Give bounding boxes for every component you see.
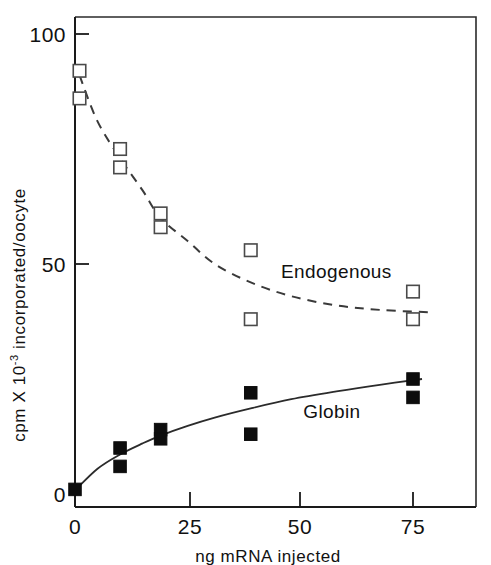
data-point (154, 207, 167, 220)
series-endogenous (73, 65, 431, 326)
data-point (73, 92, 86, 105)
data-point (114, 442, 127, 455)
y-tick-label-0: 0 (54, 483, 66, 506)
data-point (154, 433, 167, 446)
data-point (407, 313, 420, 326)
chart-canvas: 100 50 0 0 25 50 75 ng mRNA injected cpm… (0, 0, 491, 565)
x-axis (75, 492, 476, 507)
data-point (407, 373, 420, 386)
data-point (73, 65, 86, 78)
y-axis (75, 17, 89, 507)
y-axis-title: cpm X 10-3 incorporated/oocyte (8, 188, 29, 442)
y-axis-title-suffix: incorporated/oocyte (10, 188, 29, 354)
data-point (154, 221, 167, 234)
y-axis-title-prefix: cpm X 10 (10, 365, 29, 442)
data-point (407, 391, 420, 404)
series-globin (69, 373, 422, 496)
data-point (114, 460, 127, 473)
data-point (245, 313, 258, 326)
y-tick-label-50: 50 (42, 253, 66, 276)
data-point (69, 483, 82, 496)
x-axis-title: ng mRNA injected (195, 547, 341, 565)
data-point (114, 161, 127, 174)
series-label-globin: Globin (303, 401, 360, 422)
plot-frame (75, 17, 476, 507)
y-axis-title-exponent: -3 (8, 354, 20, 365)
data-point (407, 285, 420, 298)
y-tick-label-100: 100 (29, 23, 66, 46)
data-point (245, 244, 258, 257)
data-point (114, 143, 127, 156)
data-point (245, 428, 258, 441)
data-point (245, 387, 258, 400)
x-tick-label-75: 75 (401, 515, 425, 538)
series-label-endogenous: Endogenous (281, 261, 392, 282)
x-tick-label-0: 0 (69, 515, 81, 538)
x-tick-label-25: 25 (178, 515, 202, 538)
x-tick-label-50: 50 (288, 515, 312, 538)
figure-container: 100 50 0 0 25 50 75 ng mRNA injected cpm… (0, 0, 491, 565)
